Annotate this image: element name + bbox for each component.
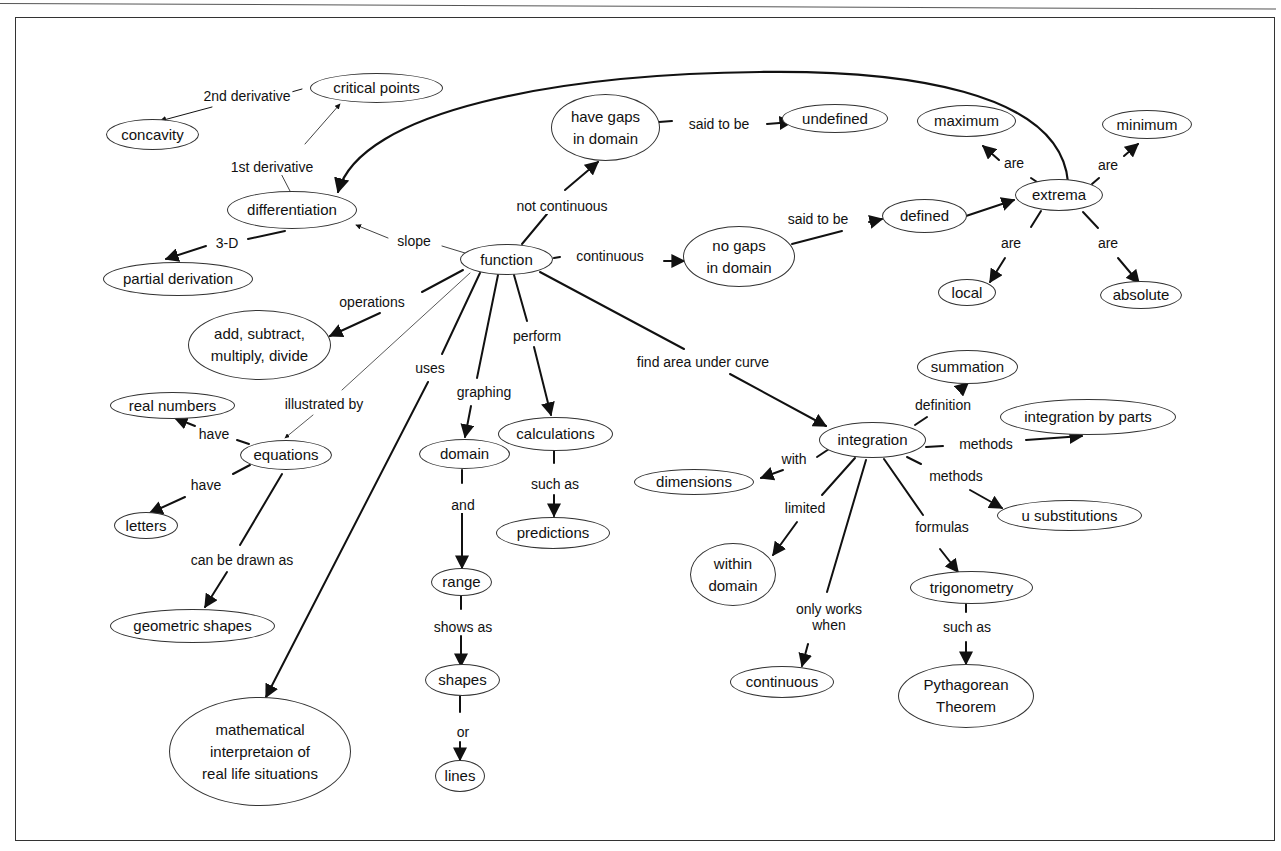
link-1st-derivative: 1st derivative — [229, 159, 315, 175]
link-are-absolute: are — [1096, 235, 1120, 251]
link-methods-u-sub: methods — [927, 468, 985, 484]
concept-map: critical points concavity differentiatio… — [0, 0, 1281, 851]
link-are-local: are — [999, 235, 1023, 251]
node-dimensions: dimensions — [634, 469, 754, 495]
link-methods-parts: methods — [957, 436, 1015, 452]
link-continuous: continuous — [574, 248, 646, 264]
node-absolute: absolute — [1100, 281, 1182, 309]
link-definition: definition — [913, 397, 973, 413]
node-no-gaps: no gaps in domain — [683, 226, 795, 287]
link-graphing: graphing — [455, 384, 514, 400]
node-lines: lines — [435, 760, 485, 792]
link-limited: limited — [783, 500, 827, 516]
node-within-domain: within domain — [690, 543, 776, 606]
link-not-continuous: not continuous — [514, 198, 609, 214]
node-u-substitutions: u substitutions — [997, 500, 1142, 531]
node-domain: domain — [419, 439, 510, 469]
link-formulas: formulas — [913, 519, 971, 535]
node-integration-by-parts: integration by parts — [1000, 399, 1176, 435]
node-shapes: shapes — [425, 664, 500, 696]
link-such-as-predictions: such as — [529, 476, 581, 492]
link-shows-as: shows as — [432, 619, 494, 635]
node-differentiation: differentiation — [227, 191, 357, 229]
node-partial-derivation: partial derivation — [103, 262, 253, 296]
node-extrema: extrema — [1015, 179, 1103, 211]
link-said-to-be-defined: said to be — [786, 211, 851, 227]
link-slope: slope — [395, 233, 432, 249]
node-function: function — [460, 244, 553, 275]
node-equations: equations — [240, 440, 332, 470]
link-illustrated-by: illustrated by — [283, 396, 366, 412]
link-have-letters: have — [189, 477, 223, 493]
node-defined: defined — [882, 199, 967, 233]
node-minimum: minimum — [1102, 110, 1192, 139]
node-range: range — [431, 568, 492, 596]
node-calculations: calculations — [498, 417, 613, 451]
node-trigonometry: trigonometry — [910, 571, 1033, 604]
link-can-be-drawn-as: can be drawn as — [189, 552, 296, 568]
link-3d: 3-D — [214, 235, 241, 251]
node-concavity: concavity — [106, 119, 199, 150]
node-undefined: undefined — [782, 104, 888, 133]
link-are-minimum: are — [1096, 157, 1120, 173]
link-such-as-trig: such as — [941, 619, 993, 635]
node-predictions: predictions — [496, 517, 610, 549]
link-are-maximum: are — [1002, 155, 1026, 171]
link-or: or — [455, 724, 471, 740]
link-said-to-be-undefined: said to be — [687, 116, 752, 132]
node-maximum: maximum — [917, 105, 1016, 137]
node-have-gaps: have gaps in domain — [551, 94, 660, 161]
link-find-area-under-curve: find area under curve — [635, 354, 771, 370]
node-math-interpretation: mathematical interpretaion of real life … — [169, 697, 351, 806]
link-uses: uses — [413, 360, 447, 376]
link-and: and — [449, 497, 476, 513]
node-arithmetic: add, subtract, multiply, divide — [188, 310, 331, 380]
link-have-real-numbers: have — [197, 426, 231, 442]
node-critical-points: critical points — [310, 73, 443, 103]
node-pythagorean: Pythagorean Theorem — [898, 664, 1034, 728]
node-integration: integration — [819, 422, 926, 458]
node-local: local — [938, 279, 996, 306]
node-geometric-shapes: geometric shapes — [110, 609, 275, 643]
node-summation: summation — [917, 350, 1018, 384]
link-with: with — [780, 451, 809, 467]
link-operations: operations — [337, 294, 406, 310]
link-2nd-derivative: 2nd derivative — [201, 88, 292, 104]
node-letters: letters — [114, 512, 178, 539]
node-continuous: continuous — [730, 666, 834, 698]
link-perform: perform — [511, 328, 563, 344]
link-only-works-when: only works when — [794, 601, 864, 633]
node-real-numbers: real numbers — [110, 392, 235, 419]
